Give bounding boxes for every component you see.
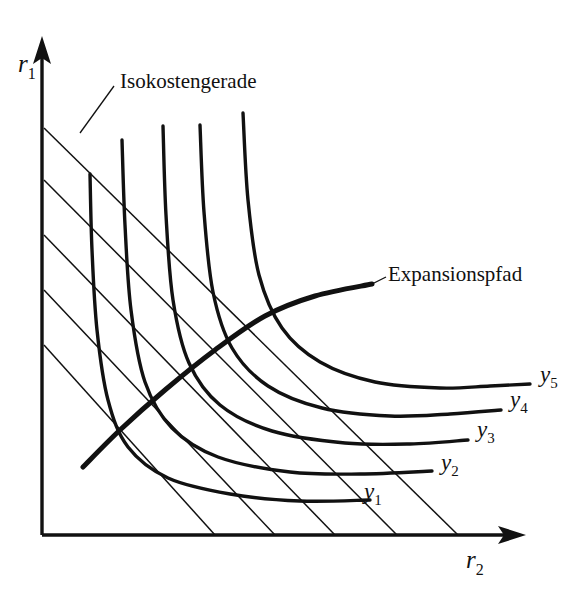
series-y5 bbox=[243, 113, 530, 388]
isoquant-label-y4: y4 bbox=[508, 387, 528, 416]
isoquant-label-subscript: 2 bbox=[451, 463, 459, 479]
y-axis-label-subscript: 1 bbox=[28, 65, 36, 82]
isoquant-label-subscript: 5 bbox=[550, 375, 558, 391]
expansion-path-leader-line bbox=[372, 277, 386, 284]
x-axis-label-text: r bbox=[466, 546, 476, 573]
series-isocost-1 bbox=[44, 345, 215, 535]
isoquant-label-y1: y1 bbox=[362, 479, 382, 508]
isoquant-label-y3: y3 bbox=[475, 417, 495, 446]
series-y2 bbox=[122, 140, 432, 474]
series-isocost-3 bbox=[44, 235, 335, 535]
series-isocost-4 bbox=[44, 180, 397, 535]
isoquant-label-text: y bbox=[508, 387, 521, 412]
isoquant-label-y2: y2 bbox=[439, 450, 459, 479]
isoquant-label-subscript: 4 bbox=[520, 400, 528, 416]
y-axis-label: r1 bbox=[18, 50, 36, 82]
series-Expansionspfad bbox=[83, 284, 372, 467]
isoquant-label-text: y bbox=[475, 417, 488, 442]
isocost-leader-line bbox=[80, 86, 114, 133]
expansion-path-annotation-label: Expansionspfad bbox=[388, 262, 523, 286]
isoquant-label-subscript: 3 bbox=[487, 430, 495, 446]
isoquant-expansion-path-chart: Isokostengerade Expansionspfad r1 r2 y1y… bbox=[0, 0, 588, 603]
expansion-path-group bbox=[83, 284, 372, 467]
isoquant-label-text: y bbox=[538, 362, 551, 387]
isoquant-label-text: y bbox=[362, 479, 375, 504]
x-axis-label: r2 bbox=[466, 546, 484, 578]
isoquant-curves-group bbox=[90, 113, 530, 501]
isoquant-label-subscript: 1 bbox=[374, 492, 382, 508]
y-axis-label-text: r bbox=[18, 50, 28, 77]
isoquant-label-text: y bbox=[439, 450, 452, 475]
figure-container: Isokostengerade Expansionspfad r1 r2 y1y… bbox=[0, 0, 588, 603]
isocost-annotation-label: Isokostengerade bbox=[120, 69, 256, 93]
isoquant-label-y5: y5 bbox=[538, 362, 558, 391]
x-axis-label-subscript: 2 bbox=[476, 561, 484, 578]
